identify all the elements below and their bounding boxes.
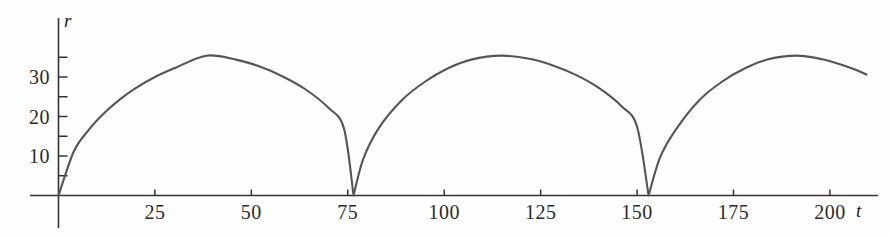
y-tick-label: 20: [8, 105, 50, 128]
x-tick-label: 200: [814, 201, 846, 224]
x-tick-label: 75: [337, 201, 358, 224]
x-tick-label: 125: [525, 201, 557, 224]
x-tick-label: 150: [621, 201, 653, 224]
x-tick-label: 175: [718, 201, 750, 224]
x-tick-label: 50: [241, 201, 262, 224]
x-tick-label: 25: [144, 201, 165, 224]
figure-container: 255075100125150175200 102030 r t: [0, 0, 890, 236]
y-axis-ticks: [59, 57, 68, 176]
y-tick-label: 10: [8, 145, 50, 168]
x-axis-ticks: [155, 190, 830, 196]
y-tick-label: 30: [8, 66, 50, 89]
data-series-curve: [59, 55, 867, 195]
x-axis-label: t: [856, 200, 861, 222]
x-tick-label: 100: [428, 201, 460, 224]
y-axis-label: r: [64, 10, 71, 32]
